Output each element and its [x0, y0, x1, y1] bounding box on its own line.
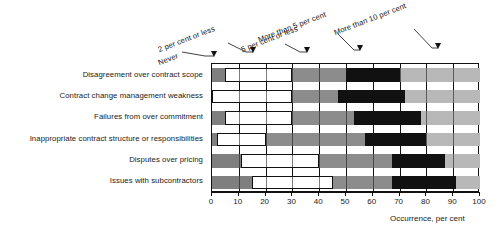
tick-stub	[292, 64, 293, 68]
tick-stub	[319, 129, 320, 133]
tick-stub	[346, 107, 347, 111]
bar-row	[212, 111, 478, 125]
tick-stub	[239, 150, 240, 154]
bar-segment	[266, 133, 365, 147]
category-label: Disagreement over contract scope	[83, 70, 203, 79]
bar-segment	[333, 176, 392, 190]
tick-stub	[426, 107, 427, 111]
bar-segment	[217, 133, 265, 147]
axis-tick-label: 0	[209, 197, 213, 206]
annotation-label-2-per-cent-or-less: 2 per cent or less	[157, 24, 216, 54]
axis-tick	[479, 192, 480, 196]
axis-tick	[211, 192, 212, 196]
axis-tick-label: 40	[314, 197, 323, 206]
tick-stub	[373, 172, 374, 176]
tick-stub	[319, 150, 320, 154]
bar-segment	[212, 90, 292, 104]
tick-stub	[292, 86, 293, 90]
tick-stub	[400, 129, 401, 133]
tick-stub	[453, 150, 454, 154]
axis-tick	[399, 192, 400, 196]
category-label: Failures from over commitment	[94, 112, 203, 121]
tick-stub	[319, 172, 320, 176]
arrow-more-than-10	[414, 29, 438, 48]
tick-stub	[266, 107, 267, 111]
axis-tick	[425, 192, 426, 196]
stacked-bar-chart: Never 2 per cent or less 5 per cent or l…	[0, 0, 501, 236]
tick-stub	[239, 64, 240, 68]
bar-segment	[212, 154, 241, 168]
tick-stub	[239, 107, 240, 111]
tick-stub	[373, 150, 374, 154]
axis-tick-label: 70	[394, 197, 403, 206]
plot-area	[211, 63, 479, 192]
arrow-more-than-5	[338, 34, 360, 50]
tick-stub	[373, 129, 374, 133]
tick-stub	[426, 150, 427, 154]
bar-segment	[225, 111, 292, 125]
arrow-5-per-cent	[285, 44, 307, 52]
axis-tick	[345, 192, 346, 196]
bar-segment	[212, 68, 225, 82]
tick-stub	[292, 129, 293, 133]
x-axis-title: Occurrence, per cent	[390, 214, 465, 223]
arrow-never	[182, 52, 214, 56]
bar-segment	[354, 111, 421, 125]
bar-segment	[400, 68, 480, 82]
bar-segment	[338, 90, 405, 104]
tick-stub	[239, 172, 240, 176]
tick-stub	[453, 64, 454, 68]
category-label: Disputes over pricing	[129, 155, 203, 164]
tick-stub	[266, 86, 267, 90]
tick-stub	[373, 64, 374, 68]
tick-stub	[400, 107, 401, 111]
annotation-label-more-than-5-per-cent: More than 5 per cent	[257, 10, 328, 44]
bar-segment	[319, 154, 391, 168]
bar-segment	[292, 90, 338, 104]
tick-stub	[400, 172, 401, 176]
bar-segment	[241, 154, 319, 168]
bar-segment	[292, 111, 354, 125]
axis-tick-label: 80	[421, 197, 430, 206]
tick-stub	[453, 129, 454, 133]
axis-tick-label: 30	[287, 197, 296, 206]
tick-stub	[266, 64, 267, 68]
tick-stub	[426, 129, 427, 133]
axis-tick	[372, 192, 373, 196]
bar-segment	[421, 111, 480, 125]
axis-tick-label: 90	[448, 197, 457, 206]
bar-segment	[212, 176, 252, 190]
bar-row	[212, 90, 478, 104]
bar-segment	[456, 176, 480, 190]
axis-tick	[265, 192, 266, 196]
axis-tick	[452, 192, 453, 196]
bar-segment	[225, 68, 292, 82]
tick-stub	[346, 64, 347, 68]
tick-stub	[319, 107, 320, 111]
axis-tick	[318, 192, 319, 196]
category-label: Inappropriate contract structure or resp…	[30, 134, 203, 143]
axis-tick-label: 20	[260, 197, 269, 206]
tick-stub	[453, 107, 454, 111]
axis-tick-label: 10	[233, 197, 242, 206]
axis-tick	[238, 192, 239, 196]
tick-stub	[373, 107, 374, 111]
tick-stub	[400, 150, 401, 154]
axis-tick-label: 50	[341, 197, 350, 206]
axis-tick-label: 100	[472, 197, 485, 206]
tick-stub	[400, 86, 401, 90]
annotation-label-more-than-10-per-cent: More than 10 per cent	[333, 1, 408, 37]
axis-tick	[291, 192, 292, 196]
tick-stub	[373, 86, 374, 90]
bar-segment	[405, 90, 480, 104]
tick-stub	[292, 150, 293, 154]
tick-stub	[346, 150, 347, 154]
tick-stub	[319, 64, 320, 68]
tick-stub	[346, 172, 347, 176]
bar-segment	[365, 133, 427, 147]
bar-segment	[392, 176, 456, 190]
tick-stub	[453, 172, 454, 176]
tick-stub	[426, 172, 427, 176]
bar-segment	[445, 154, 480, 168]
bar-segment	[212, 111, 225, 125]
